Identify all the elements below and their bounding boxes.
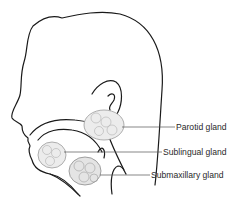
salivary-glands-diagram: Parotid gland Sublingual gland Submaxill… [0, 0, 241, 210]
parotid-gland-shape [84, 110, 124, 140]
ear-inner [108, 94, 115, 110]
sublingual-gland-shape [38, 142, 66, 168]
label-submaxillary-gland: Submaxillary gland [151, 170, 224, 180]
label-sublingual-gland: Sublingual gland [163, 147, 227, 157]
larynx [111, 166, 126, 194]
submaxillary-gland-shape [69, 157, 101, 185]
label-parotid-gland: Parotid gland [176, 122, 227, 132]
